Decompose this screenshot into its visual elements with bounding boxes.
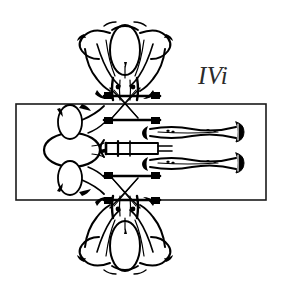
figure-canvas: IVi: [0, 0, 284, 288]
diagram-svg: IVi: [0, 0, 284, 288]
figure-label: IVi: [197, 62, 228, 89]
